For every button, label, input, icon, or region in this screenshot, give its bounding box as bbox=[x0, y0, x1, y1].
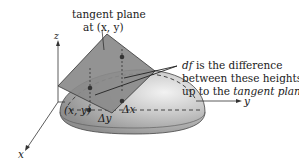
tangent-plane-label-line1: tangent plane bbox=[72, 8, 146, 20]
delta-y-label: Δy bbox=[98, 112, 112, 124]
df-label-line3: up to the tangent plane bbox=[182, 85, 299, 97]
z-axis-label: z bbox=[54, 30, 59, 42]
delta-x-label: Δx bbox=[122, 103, 136, 115]
x-axis-label: x bbox=[18, 148, 24, 160]
x-axis bbox=[25, 102, 58, 151]
tangent-plane-label-line2: at (x, y) bbox=[83, 21, 124, 33]
point-xy-label: (x, y) bbox=[64, 104, 91, 116]
df-label-line2: between these heights bbox=[182, 72, 299, 84]
df-line3-text: up to the bbox=[182, 85, 233, 97]
df-line1-text: is the difference bbox=[193, 59, 283, 71]
df-label-line1: df is the difference bbox=[182, 59, 282, 71]
df-symbol: df bbox=[182, 59, 193, 71]
z-axis bbox=[56, 40, 60, 102]
y-axis-label: y bbox=[244, 95, 250, 107]
diagram-canvas: tangent plane at (x, y) df is the differ… bbox=[0, 0, 299, 165]
